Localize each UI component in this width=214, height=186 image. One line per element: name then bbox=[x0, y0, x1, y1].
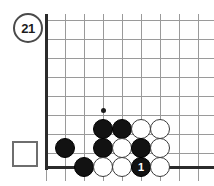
go-diagram-screenshot: 1 21 bbox=[0, 0, 214, 186]
grid-line-horizontal-0 bbox=[46, 20, 214, 21]
stone-black-a3[interactable] bbox=[55, 138, 75, 158]
stone-white-e4[interactable] bbox=[131, 119, 151, 139]
star-point bbox=[101, 108, 106, 113]
stone-black-move-1[interactable]: 1 bbox=[131, 157, 151, 177]
stone-black-b2[interactable] bbox=[74, 157, 94, 177]
grid-line-horizontal-5 bbox=[46, 115, 214, 116]
diagram-number-label: 21 bbox=[21, 21, 34, 36]
stone-white-c2[interactable] bbox=[93, 157, 113, 177]
diagram-number-badge: 21 bbox=[13, 13, 43, 43]
stone-white-f4[interactable] bbox=[150, 119, 170, 139]
stone-black-e3[interactable] bbox=[131, 138, 151, 158]
grid-line-horizontal-3 bbox=[46, 77, 214, 78]
stone-white-f2[interactable] bbox=[150, 157, 170, 177]
grid-line-horizontal-1 bbox=[46, 39, 214, 40]
stone-move-number: 1 bbox=[138, 161, 144, 172]
stone-black-c4[interactable] bbox=[93, 119, 113, 139]
grid-line-horizontal-2 bbox=[46, 58, 214, 59]
stone-black-c3[interactable] bbox=[93, 138, 113, 158]
grid-line-horizontal-4 bbox=[46, 96, 214, 97]
stone-white-d2[interactable] bbox=[112, 157, 132, 177]
stone-white-f3[interactable] bbox=[150, 138, 170, 158]
stone-white-d3[interactable] bbox=[112, 138, 132, 158]
prisoner-box-marker bbox=[12, 141, 38, 167]
stone-black-d4[interactable] bbox=[112, 119, 132, 139]
board-edge-left bbox=[45, 14, 48, 170]
